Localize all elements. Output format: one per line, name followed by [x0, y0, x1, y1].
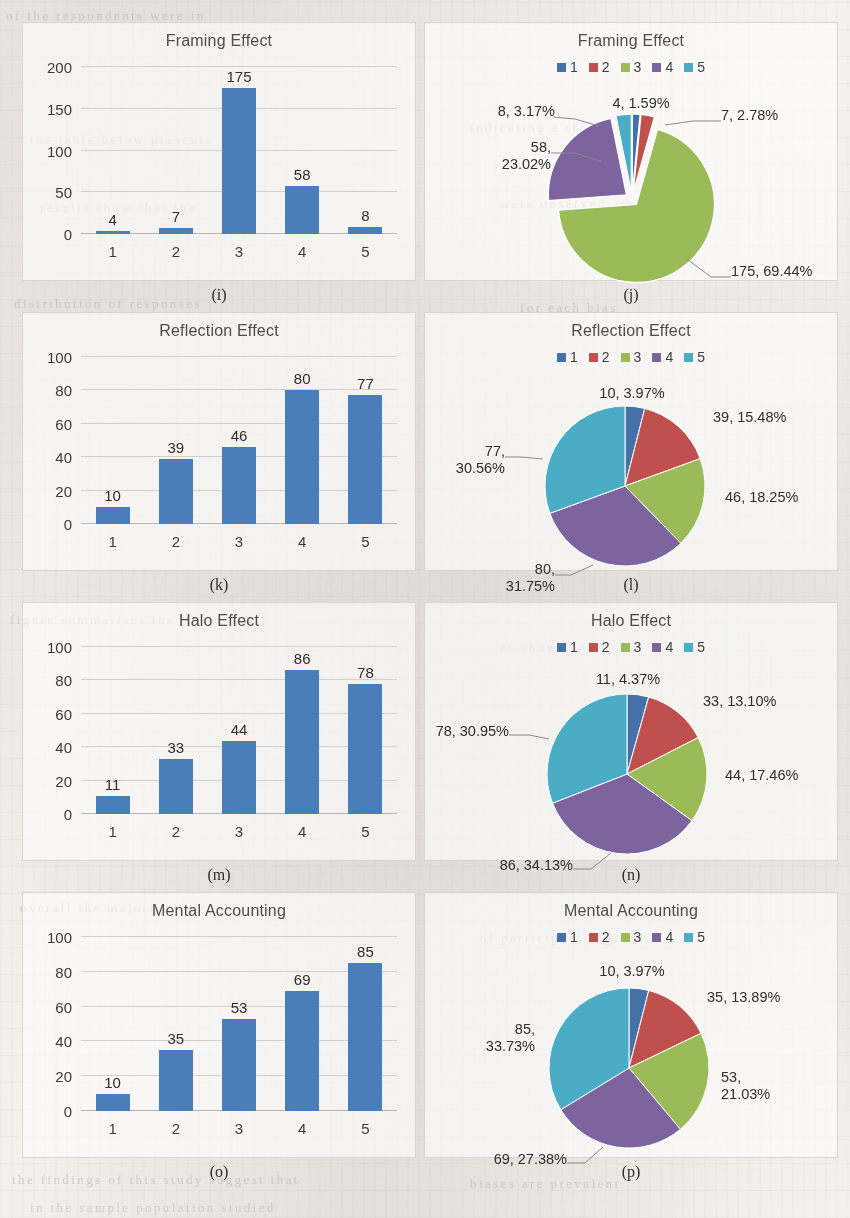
pie-leader-line [687, 259, 731, 277]
legend-label: 2 [602, 59, 610, 75]
legend-item[interactable]: 3 [621, 929, 642, 945]
x-axis-tick-label: 2 [144, 823, 207, 840]
pie-svg [425, 951, 839, 1181]
bar-value-label: 78 [357, 664, 374, 681]
pie-data-label: 10, 3.97% [577, 963, 687, 980]
bar-value-label: 85 [357, 943, 374, 960]
legend-item[interactable]: 5 [684, 929, 705, 945]
legend-item[interactable]: 5 [684, 59, 705, 75]
legend-item[interactable]: 4 [652, 929, 673, 945]
legend-item[interactable]: 1 [557, 639, 578, 655]
bar-value-label: 86 [294, 650, 311, 667]
bar[interactable] [96, 507, 130, 524]
legend-item[interactable]: 4 [652, 349, 673, 365]
bar[interactable] [159, 759, 193, 814]
bar-value-label: 10 [104, 1074, 121, 1091]
legend-label: 3 [634, 349, 642, 365]
y-axis-tick-label: 40 [55, 739, 72, 756]
chart-title: Framing Effect [425, 32, 837, 50]
y-axis-tick-label: 80 [55, 672, 72, 689]
legend-item[interactable]: 2 [589, 349, 610, 365]
legend-item[interactable]: 3 [621, 639, 642, 655]
legend-item[interactable]: 1 [557, 59, 578, 75]
legend-item[interactable]: 4 [652, 59, 673, 75]
bar-slot: 33 [144, 647, 207, 814]
bar-plot-area: 05010015020047175588 [81, 67, 397, 234]
legend-label: 1 [570, 639, 578, 655]
legend-item[interactable]: 3 [621, 59, 642, 75]
legend-item[interactable]: 3 [621, 349, 642, 365]
legend-item[interactable]: 2 [589, 929, 610, 945]
bar[interactable] [159, 459, 193, 524]
bar[interactable] [159, 228, 193, 234]
bar-value-label: 33 [167, 739, 184, 756]
x-axis-tick-label: 1 [81, 533, 144, 550]
bar[interactable] [159, 1050, 193, 1111]
bar[interactable] [285, 991, 319, 1111]
pie-slice-4[interactable] [548, 118, 626, 200]
bar[interactable] [96, 796, 130, 814]
legend-item[interactable]: 4 [652, 639, 673, 655]
bar-value-label: 39 [167, 439, 184, 456]
bar[interactable] [285, 186, 319, 234]
legend-item[interactable]: 2 [589, 639, 610, 655]
chart-title: Halo Effect [425, 612, 837, 630]
legend-label: 3 [634, 929, 642, 945]
legend-item[interactable]: 2 [589, 59, 610, 75]
pie-data-label: 4, 1.59% [601, 95, 681, 112]
legend-item[interactable]: 1 [557, 349, 578, 365]
legend-label: 4 [665, 929, 673, 945]
y-axis-tick-label: 50 [55, 184, 72, 201]
bar[interactable] [222, 741, 256, 814]
legend-item[interactable]: 5 [684, 349, 705, 365]
legend-swatch [589, 643, 598, 652]
chart-panel: Framing Effect123454, 1.59%7, 2.78%8, 3.… [424, 22, 838, 281]
bar-value-label: 175 [226, 68, 251, 85]
chart-panel: Framing Effect0501001502004717558812345 [22, 22, 416, 281]
legend-swatch [621, 63, 630, 72]
subfigure-caption: (k) [22, 573, 416, 597]
legend-label: 1 [570, 59, 578, 75]
pie-legend: 12345 [425, 59, 837, 75]
bar-slot: 78 [334, 647, 397, 814]
legend-item[interactable]: 1 [557, 929, 578, 945]
y-axis-tick-label: 20 [55, 1068, 72, 1085]
pie-data-label: 11, 4.37% [573, 671, 683, 688]
bar-plot-area: 0204060801001039468077 [81, 357, 397, 524]
bar[interactable] [285, 670, 319, 814]
x-axis-tick-label: 1 [81, 1120, 144, 1137]
bar-slot: 11 [81, 647, 144, 814]
legend-label: 4 [665, 639, 673, 655]
bar[interactable] [348, 684, 382, 814]
pie-area: 10, 3.97%35, 13.89%53,21.03%69, 27.38%85… [425, 951, 837, 1153]
legend-swatch [557, 643, 566, 652]
bar[interactable] [96, 231, 130, 234]
legend-swatch [684, 933, 693, 942]
y-axis-tick-label: 60 [55, 705, 72, 722]
legend-swatch [557, 353, 566, 362]
y-axis-tick-label: 0 [64, 806, 72, 823]
legend-item[interactable]: 5 [684, 639, 705, 655]
pie-data-label: 77,30.56% [429, 443, 505, 477]
bar[interactable] [348, 963, 382, 1111]
figure-cell-i: Framing Effect0501001502004717558812345(… [22, 22, 416, 307]
bar[interactable] [96, 1094, 130, 1111]
legend-label: 2 [602, 639, 610, 655]
y-axis-tick-label: 40 [55, 1033, 72, 1050]
bar-series: 1133448678 [81, 647, 397, 814]
bar[interactable] [222, 88, 256, 234]
bar[interactable] [285, 390, 319, 524]
x-axis-tick-label: 2 [144, 533, 207, 550]
bar-value-label: 77 [357, 375, 374, 392]
bar[interactable] [348, 227, 382, 234]
figure-grid: Framing Effect0501001502004717558812345(… [0, 0, 850, 1218]
y-axis-tick-label: 100 [47, 142, 72, 159]
bar[interactable] [222, 447, 256, 524]
bar[interactable] [348, 395, 382, 524]
chart-panel: Halo Effect1234511, 4.37%33, 13.10%44, 1… [424, 602, 838, 861]
chart-panel: Mental Accounting1234510, 3.97%35, 13.89… [424, 892, 838, 1158]
y-axis-tick-label: 80 [55, 382, 72, 399]
bar-slot: 10 [81, 357, 144, 524]
bar[interactable] [222, 1019, 256, 1111]
pie-leader-line [509, 735, 549, 739]
